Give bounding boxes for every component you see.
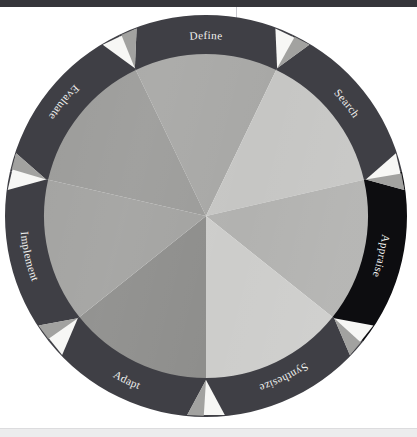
bottom-page-band [0,429,417,437]
cycle-wheel-diagram: DefineSearchAppraiseSynthesizeAdaptImple… [0,0,417,437]
wedge-sheen-overlay [43,53,369,379]
figure-page: DefineSearchAppraiseSynthesizeAdaptImple… [0,0,417,437]
wheel-svg-canvas: DefineSearchAppraiseSynthesizeAdaptImple… [0,0,417,437]
ring-label-define: Define [189,29,223,42]
